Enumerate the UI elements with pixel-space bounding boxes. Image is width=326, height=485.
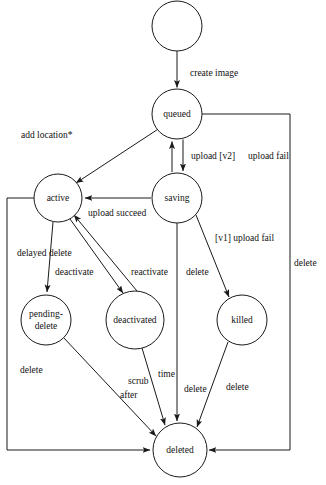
edge-label-delete-killed-to-deleted: delete <box>226 382 249 392</box>
state-node-start[interactable] <box>152 1 202 51</box>
state-label-killed: killed <box>231 315 253 325</box>
state-label-deactivated: deactivated <box>113 315 157 325</box>
state-diagram-canvas: queued active saving pending- delete dea… <box>0 0 326 485</box>
edge-label-delete-saving-to-deleted: delete <box>184 384 207 394</box>
state-diagram: queued active saving pending- delete dea… <box>0 0 326 485</box>
edge-saving-to-killed <box>196 215 229 297</box>
edge-queued-to-deleted <box>202 114 290 450</box>
edge-label-delete-saving-to-killed: delete <box>186 267 209 277</box>
edge-label-create-image: create image <box>190 68 238 78</box>
edge-label-delayed-delete: delayed delete <box>17 248 72 258</box>
edge-label-scrub: scrub <box>128 376 149 386</box>
edge-label-v1-upload-fail: [v1] upload fail <box>215 233 274 243</box>
edge-deactivated-to-deleted <box>142 348 165 425</box>
state-node-pending-delete[interactable] <box>21 295 71 345</box>
edge-queued-to-active <box>76 130 158 184</box>
edge-label-after: after <box>120 390 138 400</box>
edge-label-add-location: add location* <box>21 130 73 140</box>
edge-label-reactivate: reactivate <box>131 267 168 277</box>
state-label-queued: queued <box>163 109 191 119</box>
state-label-saving: saving <box>165 193 190 203</box>
edge-label-delete-queued-to-deleted: delete <box>294 258 317 268</box>
state-label-deleted: deleted <box>166 445 194 455</box>
edge-label-time: time <box>158 369 175 379</box>
edge-label-upload-succeed: upload succeed <box>88 208 147 218</box>
state-label-active: active <box>47 193 70 203</box>
edge-label-deactivate: deactivate <box>55 267 94 277</box>
edge-label-delete-active-to-deleted: delete <box>20 365 43 375</box>
edge-active-to-deactivated <box>70 219 123 293</box>
edge-label-upload-fail: upload fail <box>248 151 289 161</box>
state-label-pending-delete-line2: delete <box>35 321 58 331</box>
edge-pending-delete-to-deleted <box>63 337 156 436</box>
edge-label-upload-v2: upload [v2] <box>191 151 235 161</box>
edge-deactivated-to-active <box>74 215 137 291</box>
state-label-pending-delete-line1: pending- <box>29 309 63 319</box>
